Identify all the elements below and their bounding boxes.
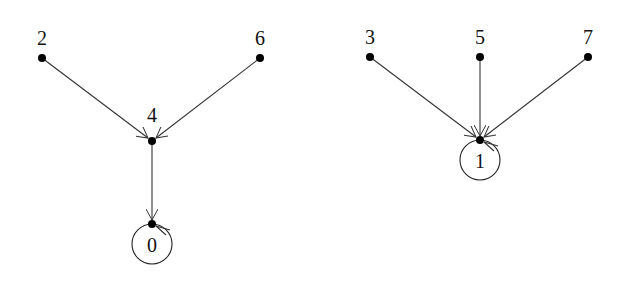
node-6 (256, 54, 264, 62)
node-2 (38, 54, 46, 62)
label-0: 0 (147, 234, 157, 256)
node-5 (476, 53, 484, 61)
edge-7-to-1 (484, 57, 588, 137)
node-7 (584, 53, 592, 61)
label-4: 4 (147, 104, 157, 126)
functional-graph-diagram: 2 6 4 0 3 5 7 1 (0, 0, 620, 281)
edge-2-to-4 (42, 58, 148, 138)
label-2: 2 (37, 27, 47, 49)
label-1: 1 (475, 150, 485, 172)
node-0 (148, 220, 156, 228)
edge-6-to-4 (156, 58, 260, 138)
label-7: 7 (583, 26, 593, 48)
label-5: 5 (475, 26, 485, 48)
node-1 (476, 136, 484, 144)
label-3: 3 (365, 26, 375, 48)
left-tree: 2 6 4 0 (37, 27, 265, 264)
right-tree: 3 5 7 1 (365, 26, 593, 180)
node-3 (366, 53, 374, 61)
edge-3-to-1 (370, 57, 476, 137)
node-4 (148, 137, 156, 145)
label-6: 6 (255, 27, 265, 49)
